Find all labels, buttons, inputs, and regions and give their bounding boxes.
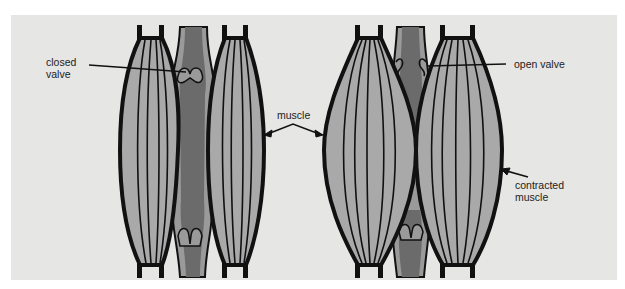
label-closed-valve: closed valve (46, 56, 76, 80)
muscle-pump-illustration (0, 0, 625, 289)
relaxed-muscle-left (120, 25, 179, 278)
contracted-state-group (324, 25, 502, 278)
label-open-valve: open valve (514, 58, 565, 70)
relaxed-muscle-right (208, 25, 264, 278)
relaxed-state-group (120, 25, 264, 278)
label-contracted-muscle: contracted muscle (515, 179, 564, 203)
label-muscle: muscle (277, 109, 310, 121)
muscle-leader (265, 124, 322, 135)
arrowhead-icon (315, 130, 323, 137)
